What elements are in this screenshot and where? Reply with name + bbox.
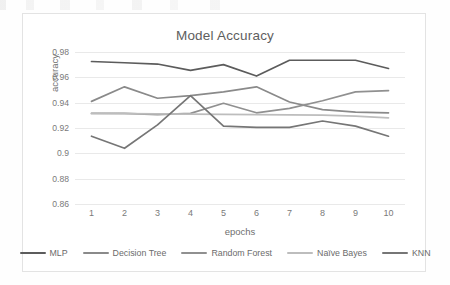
legend-label: Decision Tree [113, 248, 167, 258]
legend-label: Naïve Bayes [317, 248, 367, 258]
x-axis-title: epochs [75, 226, 405, 237]
legend-item[interactable]: KNN [382, 248, 431, 258]
series-line [92, 60, 389, 76]
legend-swatch-icon [382, 252, 408, 255]
x-tick-label: 5 [221, 208, 226, 218]
legend-swatch-icon [20, 252, 46, 255]
series-line [92, 96, 389, 149]
legend-item[interactable]: Naïve Bayes [287, 248, 367, 258]
screenshot-root: Model Accuracy accuracy 0.980.960.940.92… [0, 0, 450, 285]
legend-label: MLP [50, 248, 68, 258]
legend-label: Random Forest [211, 248, 272, 258]
legend-item[interactable]: MLP [20, 248, 68, 258]
legend-swatch-icon [287, 252, 313, 255]
legend-item[interactable]: Random Forest [181, 248, 272, 258]
y-tick-label: 0.88 [52, 174, 69, 184]
x-tick-label: 8 [320, 208, 325, 218]
x-tick-label: 3 [155, 208, 160, 218]
y-tick-label: 0.92 [52, 123, 69, 133]
scan-artifact [0, 0, 450, 10]
plot-area: 0.980.960.940.920.90.880.86 12345678910 [75, 52, 405, 204]
x-tick-label: 6 [254, 208, 259, 218]
legend-label: KNN [412, 248, 431, 258]
gridline [75, 204, 405, 205]
y-tick-label: 0.94 [52, 98, 69, 108]
legend-swatch-icon [83, 252, 109, 255]
x-tick-label: 1 [89, 208, 94, 218]
legend-item[interactable]: Decision Tree [83, 248, 167, 258]
x-tick-label: 7 [287, 208, 292, 218]
legend-swatch-icon [181, 252, 207, 255]
y-tick-label: 0.9 [57, 148, 69, 158]
chart-title: Model Accuracy [23, 28, 427, 43]
x-tick-label: 9 [353, 208, 358, 218]
x-tick-label: 4 [188, 208, 193, 218]
series-lines [75, 52, 405, 204]
x-tick-label: 2 [122, 208, 127, 218]
y-tick-label: 0.86 [52, 199, 69, 209]
y-tick-label: 0.98 [52, 47, 69, 57]
series-line [92, 113, 389, 117]
x-tick-label: 10 [383, 208, 393, 218]
y-tick-label: 0.96 [52, 72, 69, 82]
chart-legend: MLPDecision TreeRandom ForestNaïve Bayes… [31, 242, 419, 264]
chart-card: Model Accuracy accuracy 0.980.960.940.92… [22, 13, 426, 272]
